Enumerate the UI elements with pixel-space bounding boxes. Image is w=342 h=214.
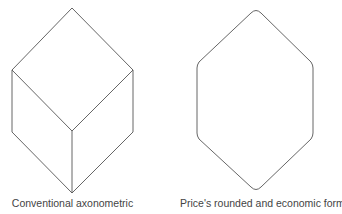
caption-conventional-axonometric: Conventional axonometric bbox=[0, 197, 145, 209]
cube-inner-edges bbox=[12, 70, 133, 131]
cube-outline bbox=[12, 8, 133, 193]
rounded-hexagon-outline bbox=[197, 11, 313, 190]
cube-drawing bbox=[12, 8, 133, 193]
rounded-hexagon-drawing bbox=[197, 11, 313, 190]
caption-rounded-form: Price's rounded and economic form bbox=[180, 197, 342, 209]
diagram-canvas bbox=[0, 0, 342, 214]
